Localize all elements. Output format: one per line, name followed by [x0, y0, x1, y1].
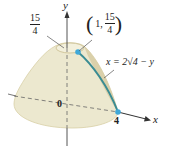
x-axis-label: x — [153, 114, 158, 125]
point-label: ( 1, 15 4 ) — [86, 12, 122, 35]
point-x: 1, — [95, 18, 103, 29]
axis-left-stub — [8, 94, 16, 96]
y-axis-label: y — [63, 0, 68, 11]
top-value-numerator: 15 — [30, 13, 40, 23]
point-y-numerator: 15 — [105, 12, 115, 22]
x-intercept-label: 4 — [114, 116, 119, 126]
x-axis — [118, 112, 146, 119]
curve-equation-label: x = 2√4 − y — [106, 57, 154, 67]
y-axis-arrow-icon — [65, 11, 70, 18]
point-x-intercept — [115, 109, 121, 115]
x-axis-arrow-icon — [144, 116, 151, 122]
paraboloid-surface — [14, 43, 118, 128]
origin-label: 0 — [57, 99, 62, 109]
top-value-label: 15 4 — [30, 13, 40, 36]
point-open-paren: ( — [86, 13, 93, 35]
point-close-paren: ) — [115, 13, 122, 35]
top-value-denominator: 4 — [33, 26, 38, 36]
point-y-denominator: 4 — [107, 25, 112, 35]
leader-equation — [104, 70, 114, 78]
point-y-fraction: 15 4 — [105, 12, 115, 35]
